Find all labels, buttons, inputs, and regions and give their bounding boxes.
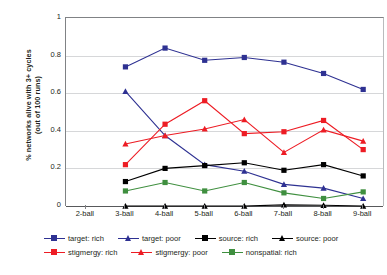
x-tick-label: 5-ball	[182, 209, 226, 218]
series-marker	[162, 122, 167, 127]
series-marker	[202, 163, 207, 168]
legend-swatch-icon	[118, 234, 139, 243]
x-tick-label: 9-ball	[340, 209, 384, 218]
series-marker	[202, 188, 207, 193]
legend-swatch-icon	[222, 248, 243, 257]
y-tick-label: 1	[42, 12, 61, 21]
legend-item[interactable]: target: poor	[118, 231, 181, 245]
legend-swatch-icon	[131, 248, 152, 257]
x-tick-label: 7-ball	[261, 209, 305, 218]
chart-legend: target: richtarget: poorsource: richsour…	[44, 231, 384, 259]
y-tick-label: 0.8	[42, 50, 61, 59]
series-line	[125, 48, 363, 89]
series-marker	[242, 131, 247, 136]
legend-item[interactable]: nonspatial: rich	[222, 245, 297, 259]
series-marker	[242, 160, 247, 165]
series-marker	[281, 60, 286, 65]
x-tick-label: 4-ball	[142, 209, 186, 218]
series-marker	[123, 188, 128, 193]
series-marker	[361, 147, 366, 152]
legend-item[interactable]: stigmergy: rich	[44, 245, 117, 259]
legend-row: stigmergy: richstigmergy: poornonspatial…	[44, 245, 384, 259]
legend-row: target: richtarget: poorsource: richsour…	[44, 231, 384, 245]
legend-item[interactable]: source: rich	[195, 231, 258, 245]
series-marker	[281, 129, 286, 134]
series-marker	[361, 173, 366, 178]
legend-item[interactable]: source: poor	[272, 231, 338, 245]
series-marker	[241, 116, 247, 122]
chart-figure: % networks alive with 3+ cycles (out of …	[0, 0, 387, 275]
legend-label: stigmergy: rich	[68, 248, 117, 257]
legend-label: source: rich	[219, 234, 258, 243]
series-marker	[123, 162, 128, 167]
y-axis-title-line1: % networks alive with 3+ cycles	[24, 49, 33, 161]
series-marker	[123, 179, 128, 184]
series-marker	[202, 98, 207, 103]
legend-item[interactable]: target: rich	[44, 231, 104, 245]
series-marker	[162, 45, 167, 50]
series-marker	[361, 189, 366, 194]
series-marker	[361, 87, 366, 92]
legend-label: stigmergy: poor	[155, 248, 207, 257]
x-tick-label: 6-ball	[221, 209, 265, 218]
legend-label: target: rich	[68, 234, 104, 243]
series-marker	[321, 71, 326, 76]
x-tick-label: 2-ball	[63, 209, 107, 218]
y-tick-label: 0.2	[42, 162, 61, 171]
series-marker	[123, 64, 128, 69]
legend-swatch-icon	[272, 234, 293, 243]
series-marker	[321, 196, 326, 201]
legend-label: target: poor	[142, 234, 181, 243]
y-tick-label: 0	[42, 200, 61, 209]
series-marker	[202, 58, 207, 63]
series-marker	[321, 162, 326, 167]
series-marker	[281, 168, 286, 173]
plot-area	[65, 17, 384, 206]
legend-swatch-icon	[44, 234, 65, 243]
x-tick-label: 8-ball	[301, 209, 345, 218]
series-marker	[242, 55, 247, 60]
x-tick-label: 3-ball	[102, 209, 146, 218]
y-tick-label: 0.4	[42, 125, 61, 134]
series-marker	[162, 180, 167, 185]
x-axis-tick-labels: 2-ball3-ball4-ball5-ball6-ball7-ball8-ba…	[65, 209, 382, 223]
legend-swatch-icon	[44, 248, 65, 257]
y-axis-tick-labels: 00.20.40.60.81	[42, 0, 61, 220]
series-marker	[242, 180, 247, 185]
series-marker	[281, 190, 286, 195]
legend-item[interactable]: stigmergy: poor	[131, 245, 207, 259]
series-marker	[320, 127, 326, 133]
series-canvas	[66, 18, 383, 206]
series-marker	[162, 166, 167, 171]
series-marker	[321, 118, 326, 123]
y-axis-title-line2: (out of 100 runs)	[33, 49, 42, 161]
legend-swatch-icon	[195, 234, 216, 243]
legend-label: nonspatial: rich	[246, 248, 297, 257]
y-tick-label: 0.6	[42, 87, 61, 96]
series-marker	[122, 88, 128, 94]
legend-label: source: poor	[296, 234, 338, 243]
